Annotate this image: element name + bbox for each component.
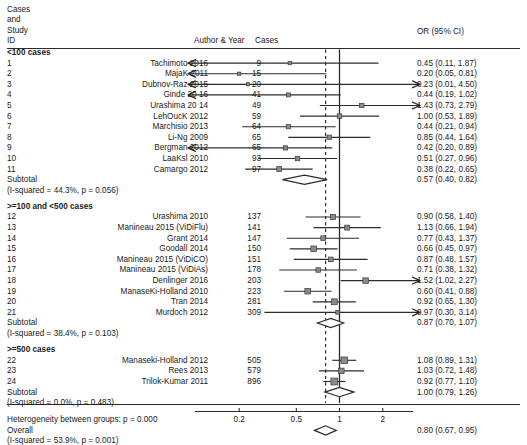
- study-id-20: 20: [7, 297, 16, 306]
- study-or-1: 0.45 (0.11, 1.87): [417, 59, 476, 68]
- study-author-13: Manineau 2015 (ViDiFlu): [28, 223, 208, 232]
- study-or-20: 0.92 (0.65, 1.30): [417, 297, 477, 306]
- x-axis-tick-label-2: 2: [368, 415, 398, 424]
- point-estimate-24: [331, 378, 338, 385]
- x-axis-tick-label-0.2: 0.2: [224, 415, 254, 424]
- study-cases-22: 505: [215, 356, 261, 365]
- study-or-8: 0.85 (0.44, 1.64): [417, 133, 477, 142]
- study-id-16: 16: [7, 255, 16, 264]
- study-cases-7: 64: [215, 122, 261, 131]
- point-estimate-1: [288, 61, 291, 64]
- study-id-3: 3: [7, 80, 12, 89]
- study-id-5: 5: [7, 101, 12, 110]
- study-author-16: Manineau 2015 (ViDiCO): [28, 255, 208, 264]
- study-cases-3: 20: [215, 80, 261, 89]
- point-estimate-7: [286, 125, 290, 129]
- header-divider-top: [7, 48, 520, 49]
- study-author-3: Dubnov-Raz 2015: [28, 80, 208, 89]
- point-estimate-10: [295, 156, 300, 161]
- study-author-1: Tachimoto 2016: [28, 59, 208, 68]
- study-cases-23: 579: [215, 366, 261, 375]
- study-cases-20: 281: [215, 297, 261, 306]
- overall-label: Overall: [7, 426, 33, 435]
- study-cases-17: 178: [215, 265, 261, 274]
- study-or-12: 0.90 (0.58, 1.40): [417, 212, 477, 221]
- study-or-21: 0.97 (0.30, 3.14): [417, 308, 477, 317]
- study-cases-5: 49: [215, 101, 261, 110]
- point-estimate-11: [277, 167, 282, 172]
- study-author-9: Bergman 2012: [28, 143, 208, 152]
- study-id-1: 1: [7, 59, 12, 68]
- study-id-19: 19: [7, 287, 16, 296]
- study-cases-13: 141: [215, 223, 261, 232]
- subtotal-or-1: 0.57 (0.40, 0.82): [417, 175, 477, 184]
- point-estimate-9: [283, 146, 287, 150]
- subtotal-label-2: Subtotal: [7, 318, 37, 327]
- study-cases-2: 15: [215, 69, 261, 78]
- study-author-23: Rees 2013: [28, 366, 208, 375]
- study-author-10: LaaKsl 2010: [28, 154, 208, 163]
- study-cases-18: 203: [215, 276, 261, 285]
- study-id-11: 11: [7, 165, 16, 174]
- study-id-10: 10: [7, 154, 16, 163]
- column-header-study-id-line-3: ID: [7, 36, 30, 46]
- overall-heterogeneity: (I-squared = 53.9%, p = 0.001): [7, 436, 119, 445]
- study-cases-11: 97: [215, 165, 261, 174]
- study-id-23: 23: [7, 366, 16, 375]
- study-or-2: 0.20 (0.05, 0.81): [417, 69, 477, 78]
- study-or-6: 1.00 (0.53, 1.89): [417, 112, 477, 121]
- study-or-7: 0.44 (0.21, 0.94): [417, 122, 477, 131]
- study-or-16: 0.87 (0.48, 1.57): [417, 255, 477, 264]
- subtotal-heterogeneity-3: (I-squared = 0.0%, p = 0.483): [7, 398, 114, 407]
- study-cases-24: 896: [215, 377, 261, 386]
- study-cases-1: 9: [215, 59, 261, 68]
- study-cases-15: 150: [215, 244, 261, 253]
- study-or-24: 0.92 (0.77, 1.10): [417, 377, 477, 386]
- point-estimate-5: [360, 103, 364, 107]
- study-author-8: Li-Ng 2009: [28, 133, 208, 142]
- subtotal-or-2: 0.87 (0.70, 1.07): [417, 318, 477, 327]
- study-id-15: 15: [7, 244, 16, 253]
- study-author-21: Murdoch 2012: [28, 308, 208, 317]
- point-estimate-12: [330, 214, 335, 219]
- point-estimate-17: [316, 268, 321, 273]
- study-cases-12: 137: [215, 212, 261, 221]
- study-cases-4: 41: [215, 90, 261, 99]
- overall-or: 0.80 (0.67, 0.95): [417, 426, 477, 435]
- study-id-9: 9: [7, 143, 12, 152]
- point-estimate-16: [329, 257, 334, 262]
- study-or-19: 0.60 (0.41, 0.88): [417, 287, 477, 296]
- column-header-or: OR (95% CI): [417, 27, 464, 36]
- study-cases-19: 223: [215, 287, 261, 296]
- point-estimate-15: [311, 246, 317, 252]
- study-id-2: 2: [7, 69, 12, 78]
- point-estimate-21: [336, 311, 340, 315]
- point-estimate-4: [286, 93, 290, 97]
- point-estimate-18: [363, 278, 368, 283]
- point-estimate-19: [305, 288, 311, 294]
- study-cases-6: 59: [215, 112, 261, 121]
- heterogeneity-between-groups: Heterogeneity between groups: p = 0.000: [7, 415, 157, 424]
- group-header-1: <100 cases: [7, 48, 50, 57]
- study-or-11: 0.38 (0.22, 0.65): [417, 165, 477, 174]
- point-estimate-23: [339, 368, 344, 373]
- subtotal-heterogeneity-2: (I-squared = 38.4%, p = 0.103): [7, 329, 119, 338]
- subtotal-or-3: 1.00 (0.79, 1.26): [417, 388, 477, 397]
- study-author-20: Tran 2014: [28, 297, 208, 306]
- study-author-22: Manaseki-Holland 2012: [28, 356, 208, 365]
- study-or-10: 0.51 (0.27, 0.96): [417, 154, 477, 163]
- study-cases-9: 65: [215, 143, 261, 152]
- study-author-18: Denlinger 2016: [28, 276, 208, 285]
- study-author-4: Ginde 20 16: [28, 90, 208, 99]
- study-or-22: 1.08 (0.89, 1.31): [417, 356, 477, 365]
- study-or-18: 1.52 (1.02, 2.27): [417, 276, 477, 285]
- study-id-12: 12: [7, 212, 16, 221]
- study-id-17: 17: [7, 265, 16, 274]
- group-header-3: >=500 cases: [7, 345, 55, 354]
- subtotal-label-3: Subtotal: [7, 388, 37, 397]
- study-or-17: 0.71 (0.38, 1.32): [417, 265, 477, 274]
- study-or-9: 0.42 (0.20, 0.89): [417, 143, 477, 152]
- study-author-11: Camargo 2012: [28, 165, 208, 174]
- study-id-13: 13: [7, 223, 16, 232]
- study-author-6: LehOucK 2012: [28, 112, 208, 121]
